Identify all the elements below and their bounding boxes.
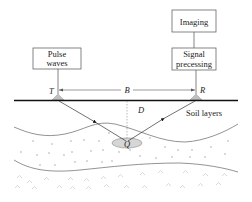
imaging-label: Imaging <box>180 17 209 27</box>
soil-chevron-texture <box>15 171 227 190</box>
gpr-diagram: Imaging Signal precessing Pulse waves B … <box>0 0 252 202</box>
incident-ray-arrow-icon <box>59 101 95 122</box>
signal-label-line1: Signal <box>183 49 205 59</box>
pulse-waves-box: Pulse waves <box>33 48 81 69</box>
imaging-box: Imaging <box>172 10 216 32</box>
signal-label-line2: precessing <box>176 59 213 69</box>
receiver-label: R <box>199 85 206 95</box>
pulse-label-line2: waves <box>46 58 67 68</box>
soil-dots-texture <box>20 132 229 166</box>
depth-label: D <box>137 105 145 115</box>
soil-layer-boundary-lower <box>14 160 238 172</box>
soil-layers-label: Soil layers <box>186 108 222 118</box>
transmitter-antenna-icon <box>52 94 64 100</box>
signal-processing-box: Signal precessing <box>172 48 216 70</box>
baseline-label: B <box>124 85 129 95</box>
baseline-b: B <box>59 85 195 95</box>
diagram-svg: Imaging Signal precessing Pulse waves B … <box>0 0 252 202</box>
transmitter-label: T <box>49 86 55 96</box>
incident-ray <box>95 122 126 141</box>
